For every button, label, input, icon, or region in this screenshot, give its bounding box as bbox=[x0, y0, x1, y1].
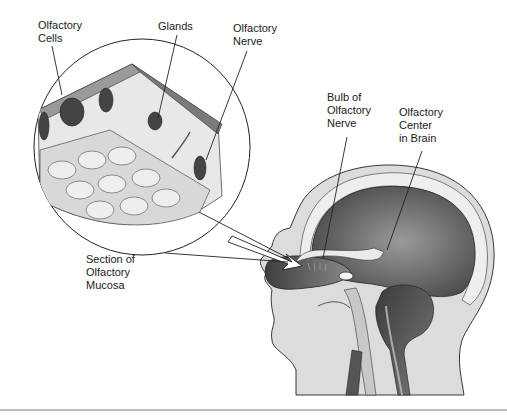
label-olfactory-cells: Olfactory Cells bbox=[38, 19, 85, 44]
label-section-of-olfactory-mucosa: Section of Olfactory Mucosa bbox=[86, 253, 138, 291]
olfactory-bulb bbox=[339, 272, 353, 280]
label-glands: Glands bbox=[158, 20, 193, 32]
mucosa-section bbox=[34, 39, 288, 262]
olfactory-diagram: Olfactory Cells Glands Olfactory Nerve B… bbox=[0, 0, 507, 417]
label-bulb-of-olfactory-nerve: Bulb of Olfactory Nerve bbox=[327, 91, 374, 129]
gland bbox=[148, 112, 162, 130]
label-olfactory-center: Olfactory Center in Brain bbox=[399, 106, 446, 144]
head-profile bbox=[260, 165, 494, 395]
gland bbox=[60, 98, 84, 126]
gland bbox=[194, 156, 206, 180]
gland bbox=[39, 112, 49, 140]
gland bbox=[99, 88, 113, 112]
label-olfactory-nerve: Olfactory Nerve bbox=[233, 22, 280, 47]
